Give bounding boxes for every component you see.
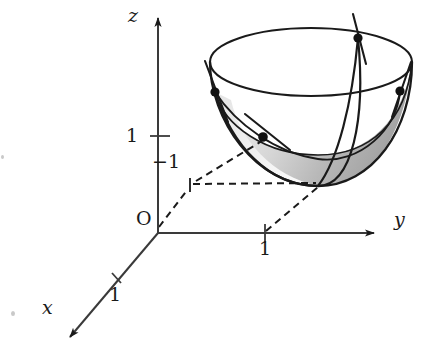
minus-one-label: −1 — [152, 152, 180, 171]
scan-speck-left — [11, 311, 15, 316]
paraboloid-diagram: O z y x 1 1 1 −1 — [0, 0, 425, 360]
point-interior-dot — [258, 132, 268, 142]
scan-speck-margin — [1, 155, 4, 159]
diagram-canvas — [0, 0, 425, 360]
x-tick-label-1: 1 — [109, 285, 121, 304]
dash-origin-to-minus-one — [159, 189, 188, 227]
origin-label: O — [136, 209, 152, 228]
dash-diagonal-upper — [196, 141, 262, 181]
point-rim-top-dot — [353, 33, 362, 42]
dash-y-one-to-vertex — [266, 187, 318, 231]
z-axis-label: z — [128, 6, 138, 25]
point-rim-left-dot — [210, 87, 219, 96]
x-axis-label: x — [42, 298, 53, 317]
z-tick-label-1: 1 — [126, 126, 138, 145]
y-tick-label-1: 1 — [259, 239, 271, 258]
rim-ellipse — [210, 28, 412, 96]
y-axis-label: y — [394, 210, 405, 229]
point-rim-right-dot — [395, 86, 404, 95]
